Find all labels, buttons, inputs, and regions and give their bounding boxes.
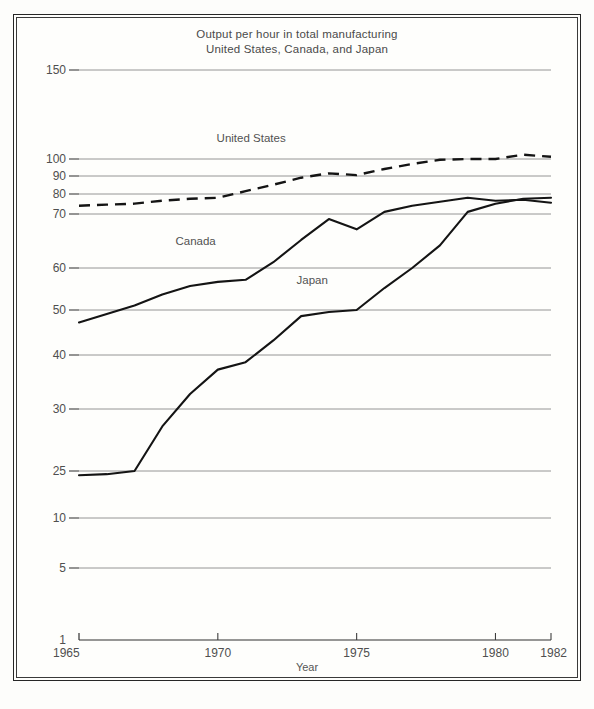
y-tick-label: 50 <box>53 303 67 317</box>
figure-container: Output per hour in total manufacturing U… <box>0 0 594 709</box>
y-tick-label: 10 <box>53 511 67 525</box>
series-line-japan <box>79 198 551 475</box>
data-series-group <box>79 155 551 476</box>
series-line-canada <box>79 198 551 323</box>
y-tick-label: 100 <box>46 152 66 166</box>
x-tick-label: 1975 <box>343 646 370 660</box>
x-tick-label: 1970 <box>204 646 231 660</box>
y-tick-label: 1 <box>59 633 66 647</box>
x-axis-group <box>79 633 551 640</box>
x-tick-label: 1980 <box>482 646 509 660</box>
x-tick-label: 1965 <box>53 646 80 660</box>
y-tick-label: 25 <box>53 464 67 478</box>
y-tick-label: 40 <box>53 348 67 362</box>
y-tick-label: 150 <box>46 63 66 77</box>
x-tick-label: 1982 <box>540 646 567 660</box>
y-tick-label: 60 <box>53 261 67 275</box>
series-annotation-group: United StatesCanadaJapan <box>175 132 327 286</box>
y-tick-label: 5 <box>59 561 66 575</box>
series-label-canada: Canada <box>175 235 216 247</box>
y-axis-tick-labels: 15010090807060504030251051 <box>46 63 66 647</box>
series-line-united-states <box>79 155 551 206</box>
y-tick-label: 30 <box>53 402 67 416</box>
gridlines-group <box>69 70 551 568</box>
y-tick-label: 70 <box>53 207 67 221</box>
x-axis-tick-labels: 19651970197519801982 <box>53 646 567 660</box>
y-tick-label: 80 <box>53 187 67 201</box>
series-label-united-states: United States <box>217 132 286 144</box>
y-tick-label: 90 <box>53 169 67 183</box>
line-chart-plot: 15010090807060504030251051 1965197019751… <box>0 0 594 709</box>
x-axis-title: Year <box>296 661 319 673</box>
series-label-japan: Japan <box>297 274 328 286</box>
